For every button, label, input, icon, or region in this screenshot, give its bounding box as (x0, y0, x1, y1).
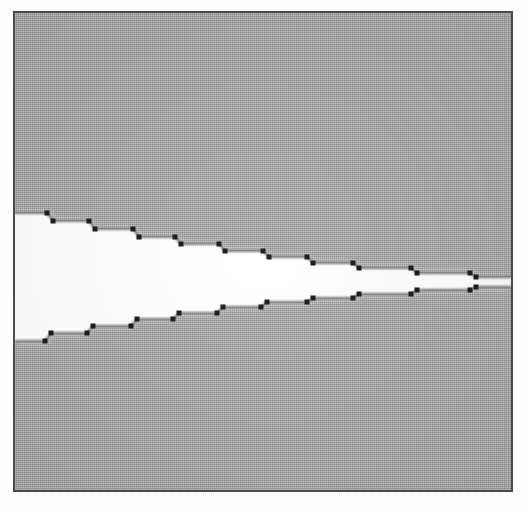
data-point-marker (51, 219, 56, 224)
data-point-marker (49, 331, 54, 336)
data-point-marker (305, 300, 310, 305)
plot-frame (13, 11, 513, 492)
data-point-marker (217, 242, 222, 247)
data-point-marker (311, 296, 316, 301)
data-point-marker (305, 255, 310, 260)
data-point-marker (415, 288, 420, 293)
data-point-marker (221, 305, 226, 310)
data-point-marker (311, 261, 316, 266)
data-point-marker (91, 324, 96, 329)
data-point-marker (215, 311, 220, 316)
wedge-fill (15, 213, 511, 341)
data-point-marker (409, 266, 414, 271)
data-point-marker (137, 235, 142, 240)
data-point-marker (261, 249, 266, 254)
data-point-marker (265, 300, 270, 305)
data-point-marker (474, 275, 479, 280)
data-point-marker (129, 324, 134, 329)
data-point-marker (177, 311, 182, 316)
data-point-marker (87, 219, 92, 224)
data-point-marker (357, 266, 362, 271)
data-point-marker (85, 331, 90, 336)
data-point-marker (351, 261, 356, 266)
data-point-marker (351, 296, 356, 301)
data-point-marker (415, 271, 420, 276)
figure-root: A grainy scanned grayscale figure. A thi… (0, 0, 529, 511)
data-point-marker (171, 317, 176, 322)
data-point-marker (267, 255, 272, 260)
data-point-marker (131, 227, 136, 232)
data-point-marker (223, 249, 228, 254)
data-point-marker (409, 292, 414, 297)
data-point-marker (474, 285, 479, 290)
plot-canvas (15, 13, 511, 490)
data-point-marker (468, 288, 473, 293)
data-point-marker (173, 235, 178, 240)
data-point-marker (43, 339, 48, 344)
data-point-marker (45, 211, 50, 216)
data-point-marker (179, 242, 184, 247)
data-point-marker (93, 227, 98, 232)
data-point-marker (135, 317, 140, 322)
data-point-marker (357, 292, 362, 297)
data-point-marker (468, 271, 473, 276)
data-point-marker (259, 305, 264, 310)
